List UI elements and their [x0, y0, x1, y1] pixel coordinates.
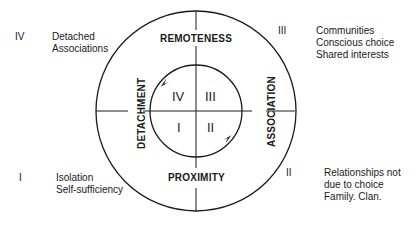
annotation-line: Detached — [52, 31, 108, 43]
annotation-line: Conscious choice — [316, 37, 394, 49]
axis-label-right: ASSOCIATION — [266, 76, 277, 147]
axis-label-bottom: PROXIMITY — [168, 172, 225, 183]
quadrant-iii: III — [205, 90, 216, 104]
annotation-line: Associations — [52, 43, 108, 55]
annotation-text-ii: Relationships not due to choice Family. … — [324, 167, 401, 203]
annotation-numeral-i: I — [19, 172, 22, 184]
annotation-line: Family. Clan. — [324, 191, 401, 203]
annotation-numeral-ii: II — [286, 167, 292, 179]
axis-label-top: REMOTENESS — [160, 33, 232, 44]
annotation-text-iv: Detached Associations — [52, 31, 108, 55]
quadrant-i: I — [177, 121, 181, 135]
annotation-text-iii: Communities Conscious choice Shared inte… — [316, 25, 394, 61]
arrow-counterclockwise-icon — [160, 78, 170, 86]
annotation-line: Isolation — [56, 172, 123, 184]
annotation-line: Shared interests — [316, 49, 394, 61]
annotation-numeral-iv: IV — [15, 31, 24, 43]
quadrant-iv: IV — [172, 90, 184, 104]
annotation-line: Communities — [316, 25, 394, 37]
annotation-line: Self-sufficiency — [56, 184, 123, 196]
quadrant-ii: II — [207, 121, 214, 135]
annotation-line: Relationships not — [324, 167, 401, 179]
arrow-clockwise-icon — [222, 135, 232, 143]
annotation-line: due to choice — [324, 179, 401, 191]
annotation-text-i: Isolation Self-sufficiency — [56, 172, 123, 196]
axis-label-left: DETACHMENT — [136, 79, 147, 149]
annotation-numeral-iii: III — [278, 25, 286, 37]
